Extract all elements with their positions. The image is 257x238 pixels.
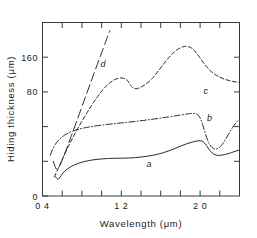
x-tick-label-12: 1 2: [114, 201, 128, 211]
curve-label-a: a: [147, 159, 152, 169]
x-tick-label-20: 2 0: [193, 201, 207, 211]
y-tick-label-160: 160: [21, 53, 38, 63]
curve-d: [53, 31, 110, 170]
curve-label-b: b: [207, 113, 212, 123]
y-tick-label-80: 80: [27, 87, 38, 97]
figure-container: d c b a 0 80 160 0 4 1 2 2 0 Wavelength …: [0, 0, 257, 238]
curve-c: [54, 46, 239, 177]
x-axis-ticks: [43, 191, 220, 197]
curve-label-c: c: [204, 86, 209, 96]
x-axis-ticks-top: [62, 23, 220, 29]
y-axis-title: Hiding thickness (μm): [5, 56, 16, 162]
chart-canvas: d c b a 0 80 160 0 4 1 2 2 0 Wavelength …: [0, 0, 257, 238]
plot-frame: [43, 23, 240, 197]
x-axis-title: Wavelength (μm): [100, 218, 183, 229]
curve-label-d: d: [101, 59, 107, 69]
x-tick-label-04: 0 4: [35, 201, 49, 211]
y-axis-ticks: [43, 23, 49, 197]
y-axis-ticks-right: [234, 57, 240, 161]
